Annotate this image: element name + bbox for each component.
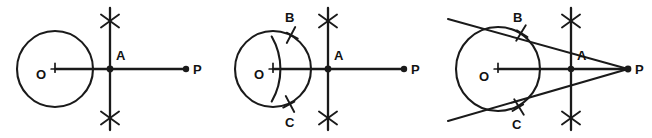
tangent-PC bbox=[448, 69, 628, 121]
tangent-PB bbox=[448, 19, 628, 69]
label-external-point-P: P bbox=[193, 62, 202, 77]
center-tick-mark bbox=[494, 63, 503, 72]
label-tangency-B: B bbox=[285, 10, 294, 25]
external-point-dot-P bbox=[183, 66, 189, 72]
external-point-dot-P bbox=[625, 66, 632, 73]
diagram-canvas: OAPOAPBCOAPBC bbox=[0, 0, 652, 138]
label-tangency-C: C bbox=[285, 115, 295, 130]
label-center-O: O bbox=[479, 69, 489, 84]
step-2-semicircle-intersections-B-and-C: OAPBC bbox=[235, 8, 420, 130]
midpoint-dot-A bbox=[325, 66, 332, 73]
label-midpoint-A: A bbox=[577, 48, 587, 63]
label-midpoint-A: A bbox=[116, 48, 126, 63]
label-external-point-P: P bbox=[635, 62, 644, 77]
midpoint-dot-A bbox=[568, 66, 574, 72]
geometry-construction-diagram: OAPOAPBCOAPBC bbox=[0, 0, 652, 138]
step-1-perpendicular-bisector-of-OP: OAP bbox=[17, 8, 202, 130]
label-external-point-P: P bbox=[411, 62, 420, 77]
label-center-O: O bbox=[36, 67, 46, 82]
step-3-tangent-lines-PB-and-PC: OAPBC bbox=[448, 8, 644, 132]
center-tick-mark bbox=[51, 63, 60, 72]
midpoint-dot-A bbox=[107, 66, 114, 73]
center-tick-mark bbox=[269, 63, 278, 72]
label-tangency-B: B bbox=[513, 10, 522, 25]
label-midpoint-A: A bbox=[334, 48, 344, 63]
label-center-O: O bbox=[254, 67, 264, 82]
label-tangency-C: C bbox=[512, 117, 522, 132]
external-point-dot-P bbox=[401, 66, 407, 72]
